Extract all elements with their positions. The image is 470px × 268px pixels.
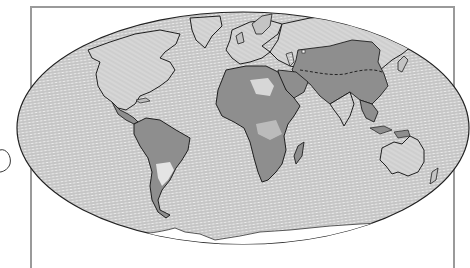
lake-balkhash <box>302 50 305 53</box>
left-edge-fragment <box>0 150 10 172</box>
